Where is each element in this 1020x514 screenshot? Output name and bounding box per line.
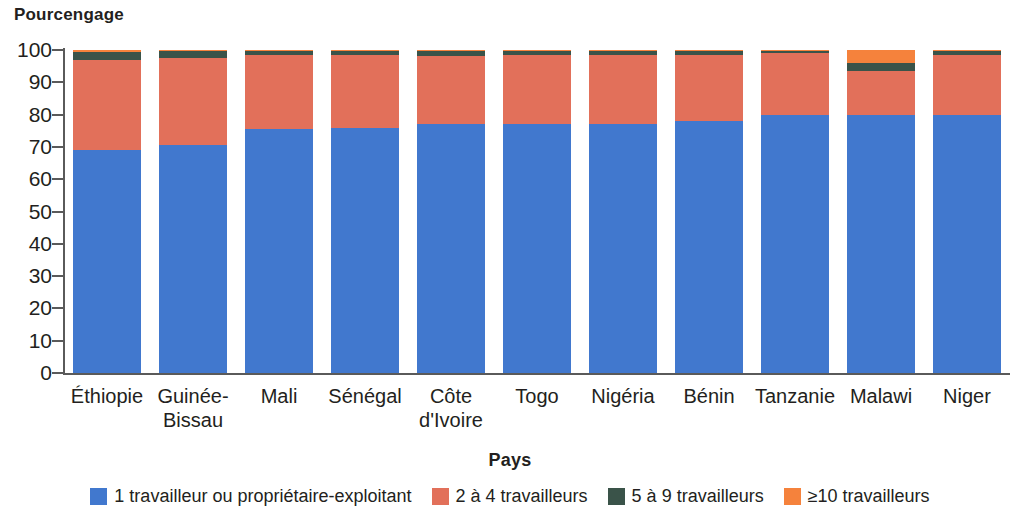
bar-stack <box>847 50 915 373</box>
x-axis-category-label: Tanzanie <box>752 384 838 408</box>
legend-swatch-icon <box>608 488 625 505</box>
x-axis-line <box>63 373 1010 375</box>
bar-segment <box>73 150 141 373</box>
y-axis-tick-label: 50 <box>4 201 52 222</box>
bar-segment <box>589 51 657 55</box>
y-axis-tick-label: 90 <box>4 71 52 92</box>
bar-segment <box>761 115 829 373</box>
bar-segment <box>159 50 227 51</box>
y-axis-tick-label: 100 <box>4 39 52 60</box>
legend-swatch-icon <box>90 488 107 505</box>
x-axis-category-label: Éthiopie <box>64 384 150 408</box>
bar-segment <box>417 56 485 124</box>
bar-segment <box>675 51 743 55</box>
y-axis-tick-label: 60 <box>4 168 52 189</box>
y-axis-tick-label: 80 <box>4 104 52 125</box>
plot-area <box>64 50 1010 373</box>
x-axis-category-label: Nigéria <box>580 384 666 408</box>
bar-segment <box>331 128 399 373</box>
x-axis-title: Pays <box>0 450 1020 471</box>
bar-segment <box>589 50 657 51</box>
x-axis-category-label: Malawi <box>838 384 924 408</box>
legend-item[interactable]: 5 à 9 travailleurs <box>608 486 764 506</box>
legend-item[interactable]: 2 à 4 travailleurs <box>432 486 588 506</box>
y-axis-tick <box>52 146 63 148</box>
y-axis-tick <box>52 211 63 213</box>
x-axis-category-label: Sénégal <box>322 384 408 408</box>
y-axis-tick <box>52 275 63 277</box>
legend-item[interactable]: 1 travailleur ou propriétaire-exploitant <box>90 486 411 506</box>
bar-segment <box>675 55 743 121</box>
bar-segment <box>847 63 915 71</box>
y-axis-tick-label: 10 <box>4 330 52 351</box>
bar-segment <box>933 50 1001 51</box>
bar-segment <box>331 55 399 128</box>
bar-segment <box>503 55 571 124</box>
x-axis-category-label: Guinée- Bissau <box>150 384 236 432</box>
bar-segment <box>589 124 657 373</box>
legend-label: ≥10 travailleurs <box>808 486 930 506</box>
bar-stack <box>73 50 141 373</box>
bar-segment <box>675 121 743 373</box>
bar-segment <box>675 50 743 51</box>
bar-segment <box>73 52 141 60</box>
bar-stack <box>245 50 313 373</box>
bar-segment <box>761 50 829 53</box>
bar-segment <box>847 115 915 373</box>
y-axis-tick-label: 0 <box>4 362 52 383</box>
x-axis-category-label: Mali <box>236 384 322 408</box>
bar-stack <box>589 50 657 373</box>
chart-legend: 1 travailleur ou propriétaire-exploitant… <box>0 486 1020 506</box>
y-axis-tick <box>52 81 63 83</box>
y-axis-tick-label: 30 <box>4 265 52 286</box>
bar-segment <box>503 51 571 55</box>
bar-segment <box>159 58 227 145</box>
bar-stack <box>675 50 743 373</box>
bar-segment <box>73 60 141 150</box>
y-axis-tick <box>52 307 63 309</box>
legend-label: 2 à 4 travailleurs <box>456 486 588 506</box>
y-axis-tick <box>52 243 63 245</box>
bar-segment <box>933 55 1001 115</box>
bar-segment <box>245 50 313 51</box>
legend-label: 5 à 9 travailleurs <box>632 486 764 506</box>
legend-swatch-icon <box>784 488 801 505</box>
legend-item[interactable]: ≥10 travailleurs <box>784 486 930 506</box>
y-axis-tick-label: 40 <box>4 233 52 254</box>
y-axis-tick <box>52 372 63 374</box>
bar-segment <box>933 51 1001 55</box>
bar-segment <box>245 129 313 373</box>
bar-segment <box>417 50 485 51</box>
x-axis-category-label: Côte d'Ivoire <box>408 384 494 432</box>
bar-segment <box>417 124 485 373</box>
bar-segment <box>503 124 571 373</box>
bar-segment <box>847 71 915 115</box>
bar-segment <box>73 50 141 52</box>
bar-segment <box>589 55 657 124</box>
bar-segment <box>933 115 1001 373</box>
y-axis-tick <box>52 114 63 116</box>
bar-segment <box>159 51 227 58</box>
y-axis-tick <box>52 49 63 51</box>
bar-segment <box>245 51 313 55</box>
bar-stack <box>761 50 829 373</box>
bar-stack <box>417 50 485 373</box>
x-axis-category-label: Bénin <box>666 384 752 408</box>
bar-segment <box>331 51 399 55</box>
bar-segment <box>847 50 915 63</box>
bar-segment <box>503 50 571 51</box>
bar-segment <box>761 53 829 114</box>
y-axis-tick <box>52 178 63 180</box>
bar-segment <box>245 55 313 129</box>
legend-label: 1 travailleur ou propriétaire-exploitant <box>114 486 411 506</box>
y-axis-tick-label: 20 <box>4 297 52 318</box>
y-axis-tick-label: 70 <box>4 136 52 157</box>
legend-swatch-icon <box>432 488 449 505</box>
bar-segment <box>331 50 399 51</box>
bar-stack <box>159 50 227 373</box>
bar-stack <box>503 50 571 373</box>
y-axis-title: Pourcengage <box>14 5 124 25</box>
bar-stack <box>933 50 1001 373</box>
bar-segment <box>417 51 485 56</box>
x-axis-category-label: Togo <box>494 384 580 408</box>
